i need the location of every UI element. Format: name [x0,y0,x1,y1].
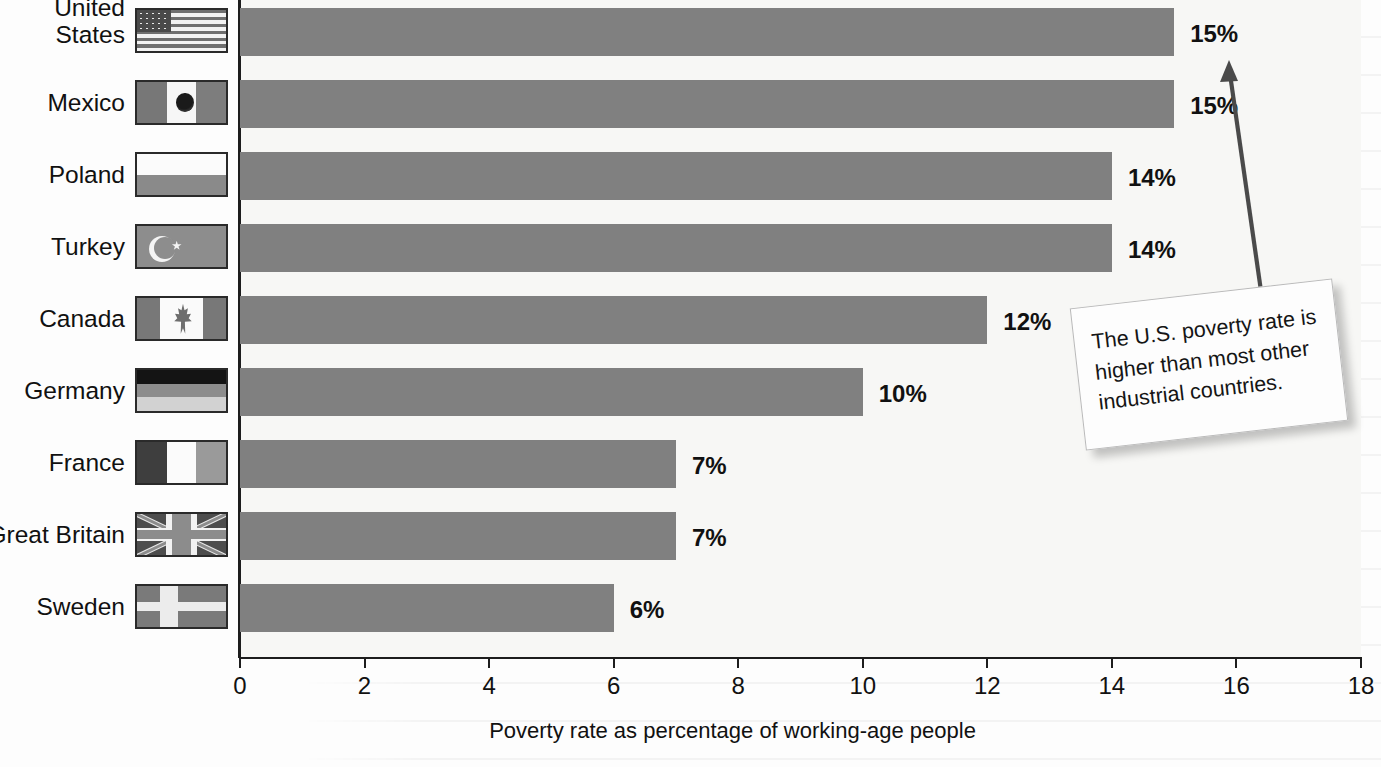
x-axis-tick-label: 18 [1331,672,1381,700]
flag-turkey-icon [135,224,228,269]
bar [240,440,676,488]
flag-sweden-icon [135,584,228,629]
x-axis-title: Poverty rate as percentage of working-ag… [0,718,1381,744]
bar [240,512,676,560]
x-axis-tick [613,657,615,668]
country-label-sweden: Sweden [0,593,125,620]
bar-row: Sweden6% [0,584,1381,632]
x-axis-tick-label: 14 [1082,672,1142,700]
poverty-rate-bar-chart: UnitedStates15%Mexico15%Poland14%Turkey1… [0,0,1381,767]
bar-value-label: 7% [692,452,727,480]
flag-germany-icon [135,368,228,413]
x-axis-tick-label: 6 [584,672,644,700]
x-axis-tick [488,657,490,668]
x-axis-tick-label: 10 [833,672,893,700]
x-axis-tick-label: 0 [210,672,270,700]
country-label-france: France [0,449,125,476]
bar [240,368,863,416]
callout-arrow-icon [1180,40,1310,310]
bar [240,8,1174,56]
x-axis-tick-label: 4 [459,672,519,700]
x-axis-tick [1360,657,1362,668]
x-axis-tick [364,657,366,668]
country-label-mexico: Mexico [0,89,125,116]
bar-value-label: 7% [692,524,727,552]
callout-box: The U.S. poverty rate is higher than mos… [1070,279,1348,451]
x-axis-tick [1111,657,1113,668]
flag-canada-icon [135,296,228,341]
flag-mexico-icon [135,80,228,125]
x-axis-tick [737,657,739,668]
bar-value-label: 10% [879,380,927,408]
bar-value-label: 12% [1003,308,1051,336]
x-axis-tick [1235,657,1237,668]
flag-poland-icon [135,152,228,197]
x-axis-tick-label: 8 [708,672,768,700]
bar-value-label: 14% [1128,164,1176,192]
bar [240,296,987,344]
x-axis-tick-label: 2 [335,672,395,700]
country-label-germany: Germany [0,377,125,404]
bar-row: Poland14% [0,152,1381,200]
bar [240,80,1174,128]
country-label-great-britain: Great Britain [0,521,125,548]
bar-row: Mexico15% [0,80,1381,128]
bar-row: France7% [0,440,1381,488]
country-label-poland: Poland [0,161,125,188]
flag-united-states-icon [135,8,228,53]
bar-row: Turkey14% [0,224,1381,272]
bar-value-label: 6% [630,596,665,624]
country-label-canada: Canada [0,305,125,332]
bar [240,224,1112,272]
x-axis-tick [862,657,864,668]
x-axis-tick [986,657,988,668]
bar [240,152,1112,200]
bar-row: UnitedStates15% [0,8,1381,56]
country-label-united-states: UnitedStates [0,0,125,49]
callout-text: The U.S. poverty rate is higher than mos… [1090,301,1331,418]
bar [240,584,614,632]
bar-row: Great Britain7% [0,512,1381,560]
country-label-turkey: Turkey [0,233,125,260]
x-axis-tick-label: 12 [957,672,1017,700]
flag-great-britain-icon [135,512,228,557]
x-axis-tick-label: 16 [1206,672,1266,700]
flag-france-icon [135,440,228,485]
x-axis-tick [239,657,241,668]
x-axis-line [240,657,1361,659]
bar-value-label: 14% [1128,236,1176,264]
